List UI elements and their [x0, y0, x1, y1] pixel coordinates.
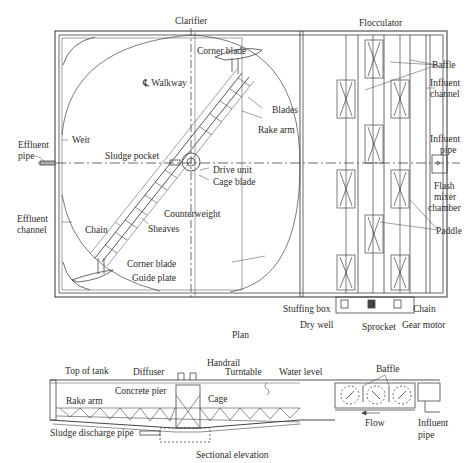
label-weir: Weir: [72, 135, 90, 145]
label-paddle: Paddle: [436, 226, 462, 236]
label-corner-blade-bottom: Corner blade: [127, 259, 176, 269]
label-drive-unit: Drive unit: [213, 165, 252, 175]
label-chain-left: Chain: [85, 225, 108, 235]
sludge-discharge-base: [160, 428, 210, 442]
label-walkway: ℄ Walkway: [143, 78, 187, 88]
label-effluent-channel-1: Effluent: [17, 214, 48, 224]
label-clarifier: Clarifier: [175, 16, 207, 26]
label-rake-arm-elevation: Rake arm: [66, 396, 103, 406]
label-stuffing-box: Stuffing box: [283, 304, 331, 314]
label-cage-blade: Cage blade: [213, 177, 255, 187]
label-sludge-discharge-pipe: Sludge discharge pipe: [50, 428, 134, 438]
label-guide-plate: Guide plate: [132, 273, 176, 283]
label-rake-arm: Rake arm: [258, 125, 295, 135]
label-top-of-tank: Top of tank: [65, 366, 109, 376]
corner-blade-bottom: [72, 270, 113, 282]
label-flash-mixer-2: mixer: [434, 192, 456, 202]
clarifier-flocculator-diagram: [0, 0, 475, 463]
label-gear-motor: Gear motor: [402, 320, 446, 330]
label-influent-pipe-elev-2: pipe: [418, 430, 434, 440]
label-water-level: Water level: [279, 367, 322, 377]
label-sprocket: Sprocket: [362, 322, 396, 332]
label-counterweight: Counterweight: [164, 209, 220, 219]
label-baffle-elevation: Baffle: [376, 364, 400, 374]
rake-arm-elevation: [56, 408, 300, 422]
label-flash-mixer-3: chamber: [428, 203, 461, 213]
label-flocculator: Flocculator: [359, 18, 402, 28]
label-influent-pipe-2: pipe: [440, 145, 456, 155]
handrail: [178, 373, 196, 380]
label-effluent-pipe-1: Effluent: [18, 140, 49, 150]
label-chain-right: Chain: [413, 304, 436, 314]
caption-sectional-elevation: Sectional elevation: [196, 450, 269, 460]
label-sheaves: Sheaves: [148, 224, 179, 234]
concrete-pier: [176, 385, 200, 428]
label-influent-channel-2: channel: [430, 89, 460, 99]
effluent-pipe: [40, 161, 55, 165]
label-concrete-pier: Concrete pier: [115, 386, 166, 396]
tank-left-wall: [50, 380, 56, 420]
label-flash-mixer-1: Flash: [434, 181, 455, 191]
label-blades: Blades: [272, 105, 298, 115]
label-dry-well: Dry well: [300, 320, 334, 330]
caption-plan: Plan: [232, 330, 249, 340]
label-turntable: Turntable: [225, 367, 262, 377]
label-baffle: Baffle: [432, 60, 456, 70]
label-effluent-channel-2: channel: [17, 225, 47, 235]
sludge-pocket: [170, 160, 180, 165]
label-influent-channel-1: Influent: [430, 78, 460, 88]
rake-circle: [62, 35, 300, 292]
label-corner-blade-top: Corner blade: [197, 46, 246, 56]
label-diffuser: Diffuser: [133, 367, 164, 377]
label-flow: Flow: [365, 418, 385, 428]
label-sludge-pocket: Sludge pocket: [105, 151, 159, 161]
label-influent-pipe-elev-1: Influent: [418, 418, 448, 428]
label-cage: Cage: [208, 394, 228, 404]
label-effluent-pipe-2: pipe: [18, 151, 34, 161]
label-influent-pipe-1: Influent: [430, 134, 460, 144]
